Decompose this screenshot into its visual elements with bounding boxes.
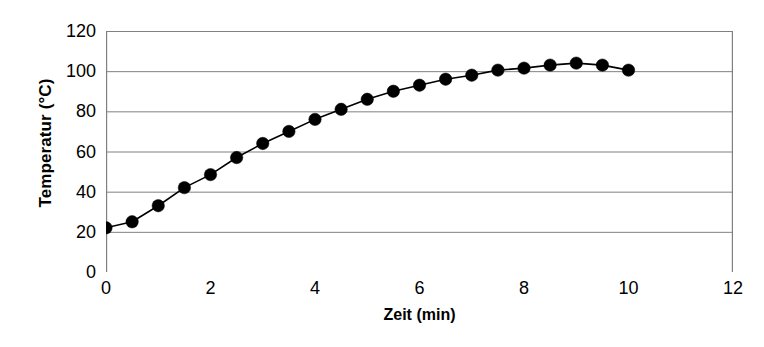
data-point [178, 181, 190, 193]
y-tick-label-20: 20 [44, 223, 96, 241]
data-point [544, 59, 556, 71]
data-point [309, 113, 321, 125]
data-point [335, 103, 347, 115]
data-point [492, 64, 504, 76]
y-tick-label-80: 80 [44, 102, 96, 120]
data-point [466, 69, 478, 81]
y-tick-label-120: 120 [44, 22, 96, 40]
x-tick-label-6: 6 [390, 279, 450, 297]
x-tick-label-8: 8 [494, 279, 554, 297]
x-tick-label-2: 2 [181, 279, 241, 297]
data-point [257, 137, 269, 149]
series-markers [106, 57, 635, 234]
x-tick-label-12: 12 [703, 279, 763, 297]
temperature-time-chart: Temperatur (°C) 020406080100120 02468101… [0, 0, 764, 347]
data-point [387, 85, 399, 97]
data-point [596, 59, 608, 71]
data-point [204, 168, 216, 180]
series-line [106, 63, 629, 228]
x-tick-label-0: 0 [76, 279, 136, 297]
plot-area [106, 31, 733, 272]
data-point [518, 62, 530, 74]
gridlines [106, 32, 733, 273]
x-tick-label-4: 4 [285, 279, 345, 297]
data-point [622, 64, 634, 76]
y-tick-label-40: 40 [44, 183, 96, 201]
data-point [413, 79, 425, 91]
data-point [570, 57, 582, 69]
y-tick-label-60: 60 [44, 143, 96, 161]
plot-svg [106, 31, 733, 272]
data-point [283, 125, 295, 137]
data-point [230, 151, 242, 163]
x-axis-title: Zeit (min) [106, 306, 733, 324]
data-point [439, 73, 451, 85]
data-point [126, 216, 138, 228]
y-tick-label-100: 100 [44, 62, 96, 80]
data-point [361, 93, 373, 105]
data-point [152, 200, 164, 212]
x-tick-label-10: 10 [599, 279, 659, 297]
